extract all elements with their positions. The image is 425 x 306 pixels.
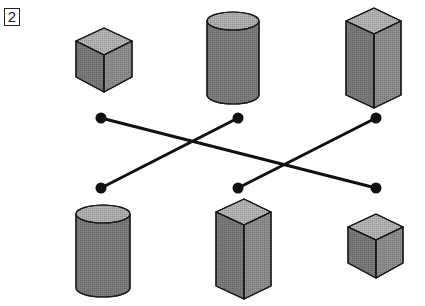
- matching-diagram: [0, 0, 425, 306]
- bottom-cube-shape: [348, 214, 403, 278]
- dot-top-1: [96, 113, 107, 124]
- dot-bottom-1: [96, 183, 107, 194]
- bottom-cylinder-shape: [76, 205, 130, 297]
- line-top1-bottom3: [101, 118, 376, 188]
- top-cylinder-shape: [207, 12, 259, 104]
- dot-top-2: [233, 113, 244, 124]
- connection-lines: [101, 118, 376, 188]
- dot-top-3: [371, 113, 382, 124]
- top-prism-shape: [346, 8, 401, 108]
- line-top3-bottom2: [238, 118, 376, 188]
- line-top2-bottom1: [101, 118, 238, 188]
- dot-bottom-2: [233, 183, 244, 194]
- dot-bottom-3: [371, 183, 382, 194]
- bottom-prism-shape: [216, 199, 271, 299]
- top-cube-shape: [76, 28, 132, 92]
